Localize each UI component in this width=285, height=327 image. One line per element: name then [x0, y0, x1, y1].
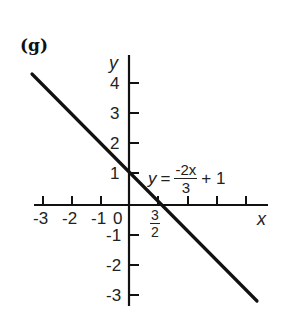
x-axis-ticks: [43, 196, 246, 205]
equation-rest: + 1: [201, 169, 225, 189]
equation-equals: =: [161, 169, 171, 189]
y-tick-4: 4: [110, 75, 119, 92]
y-tick-neg1: -1: [106, 227, 121, 244]
equation-lhs: y: [148, 169, 157, 189]
x-tick-neg2: -2: [62, 210, 77, 227]
graph-figure: (g) y x 4 3 2 1 -1 -2 -3 -3 -2 -1 0 3 2 …: [0, 0, 285, 327]
x-intercept-numerator: 3: [150, 208, 160, 224]
equation-fraction: -2x 3: [174, 162, 197, 195]
y-axis-ticks: [129, 83, 139, 295]
y-axis-label: y: [109, 54, 118, 72]
x-intercept-label: 3 2: [150, 208, 160, 239]
x-intercept-denominator: 2: [150, 224, 160, 239]
x-axis-label: x: [257, 210, 266, 228]
x-tick-neg3: -3: [33, 210, 48, 227]
y-tick-3: 3: [110, 105, 119, 122]
x-tick-neg1: -1: [91, 210, 106, 227]
y-tick-2: 2: [110, 135, 119, 152]
x-tick-0: 0: [113, 210, 122, 227]
equation-numerator: -2x: [174, 162, 197, 179]
y-tick-neg2: -2: [106, 257, 121, 274]
equation-denominator: 3: [174, 179, 197, 195]
y-tick-1: 1: [110, 165, 119, 182]
line-equation: y = -2x 3 + 1: [148, 162, 225, 195]
panel-label: (g): [20, 35, 48, 55]
y-tick-neg3: -3: [106, 287, 121, 304]
